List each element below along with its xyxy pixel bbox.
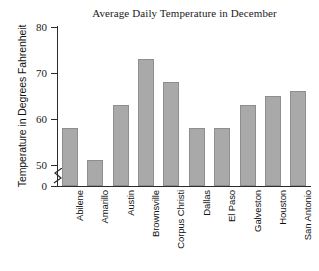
x-tick-label: Brownsville (150, 190, 161, 237)
bars-container (57, 27, 311, 186)
bar (138, 59, 154, 186)
y-tick-label: 80 (21, 21, 47, 33)
x-tick-label: San Antonio (302, 190, 313, 240)
y-tick-label: 70 (21, 67, 47, 79)
bar (265, 96, 281, 186)
y-tick-label: 0 (21, 180, 47, 192)
y-tick-label: 60 (21, 113, 47, 125)
x-tick-label: Abilene (74, 190, 85, 221)
bar (87, 160, 103, 186)
x-tick-label: El Paso (226, 190, 237, 222)
bar (163, 82, 179, 186)
x-tick-label: Dallas (201, 190, 212, 216)
x-tick-label: Austin (125, 190, 136, 216)
bar (290, 91, 306, 186)
x-tick-label: Galveston (252, 190, 263, 232)
bar (62, 128, 78, 186)
bar (214, 128, 230, 186)
x-tick-label: Houston (277, 190, 288, 225)
x-tick-label: Amarillo (99, 190, 110, 224)
x-axis-line (57, 186, 311, 187)
chart-screenshot: Average Daily Temperature in December Te… (0, 0, 319, 271)
bar (240, 105, 256, 186)
y-tick-mark (51, 186, 57, 187)
y-tick-label: 50 (21, 159, 47, 171)
bar (189, 128, 205, 186)
bar (113, 105, 129, 186)
chart-title: Average Daily Temperature in December (62, 7, 307, 19)
x-tick-label: Corpus Christi (175, 190, 186, 249)
x-axis-labels: AbileneAmarilloAustinBrownsvilleCorpus C… (57, 188, 311, 270)
